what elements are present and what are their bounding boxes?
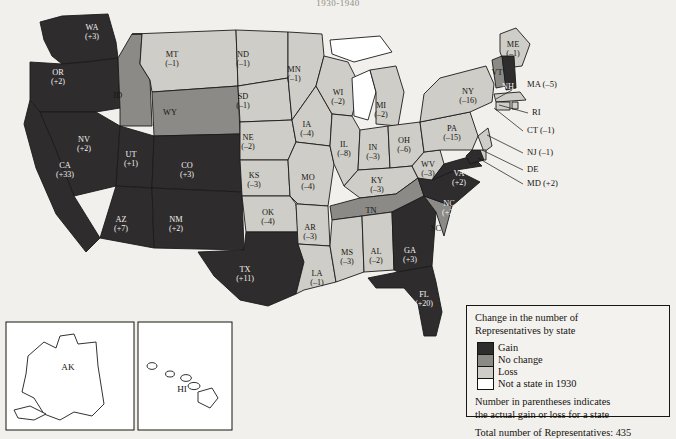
legend-note-line1: Number in parentheses indicates [475,396,661,409]
state-label-ID: ID [114,91,123,100]
legend-swatch-loss [477,366,494,378]
state-label-MI: MI(–2) [374,101,388,119]
state-MD[interactable] [466,150,484,164]
state-MA[interactable] [494,92,526,102]
lake-superior [330,36,392,62]
state-AZ[interactable] [100,186,154,248]
callout-label-RI: RI [532,107,541,117]
state-label-WY: WY [163,108,177,117]
state-label-LA: LA(–1) [310,269,324,287]
state-label-VA: VA(+2) [452,169,466,187]
callout-label-DE: DE [527,164,538,174]
legend-item-gain[interactable]: Gain [477,342,661,354]
callout-label-NJ: NJ (–1) [527,147,553,157]
state-label-NV: NV(+2) [77,135,91,153]
legend-heading: Change in the number of Representatives … [475,312,661,337]
legend-label-nochange: No change [498,354,543,367]
state-OR[interactable] [30,58,120,112]
legend-item-notstate[interactable]: Not a state in 1930 [477,378,661,390]
state-label-NE: NE(–2) [241,133,255,151]
state-NM[interactable] [152,188,244,250]
legend-heading-line2: Representatives by state [475,325,661,338]
state-RI[interactable] [512,102,518,109]
state-label-ME: ME(–1) [506,40,520,58]
state-KS[interactable] [240,160,290,196]
inset-label-AK: AK [61,362,75,372]
state-label-SD: SD(–1) [236,92,250,110]
state-label-MS: MS(–3) [340,248,354,266]
legend-label-notstate: Not a state in 1930 [498,378,577,391]
legend-heading-line1: Change in the number of [475,312,661,325]
state-label-SC: SC [431,224,442,233]
callout-leader-MD [478,158,523,184]
state-label-OR: OR(+2) [51,68,65,86]
state-label-NM: NM(+2) [169,215,183,233]
callout-label-CT: CT (–1) [527,125,554,135]
state-label-VT: VT [491,68,502,77]
state-label-WA: WA(+3) [85,23,99,41]
map-figure: 1930-1940 [0,0,676,439]
state-label-CO: CO(+3) [180,161,194,179]
state-label-WI: WI(–2) [331,88,345,106]
state-label-KS: KS(–3) [247,171,261,189]
state-label-AR: AR(–3) [303,223,317,241]
state-label-AZ: AZ(+7) [114,215,128,233]
state-label-NC: NC(+2) [442,199,456,217]
state-label-AL: AL(–2) [369,247,383,265]
callout-leader-NJ [487,135,523,153]
state-label-MO: MO(–4) [301,173,315,191]
state-NY[interactable] [420,66,494,122]
legend-item-loss[interactable]: Loss [477,366,661,378]
state-label-KY: KY(–3) [370,176,384,194]
legend: Change in the number of Representatives … [466,305,670,417]
callout-label-MD: MD (+2) [527,178,558,188]
state-label-UT: UT(+1) [124,150,138,168]
state-label-NH: NH [502,82,514,91]
state-label-ND: ND(–1) [236,50,250,68]
legend-note-line2: the actual gain or loss for a state [475,409,661,422]
state-NJ[interactable] [478,128,492,152]
legend-swatch-gain [477,342,494,354]
legend-label-gain: Gain [498,342,518,355]
state-label-MN: MN(–1) [287,65,301,83]
state-WA[interactable] [40,14,118,64]
state-label-WV: WV(–3) [421,160,435,178]
legend-note: Number in parentheses indicates the actu… [475,396,661,421]
callout-leader-CT [494,108,523,131]
legend-swatch-notstate [477,378,494,390]
state-label-GA: GA(+3) [403,246,417,264]
callout-label-MA: MA (–5) [527,79,557,89]
inset-label-HI: HI [177,384,187,394]
legend-swatch-nochange [477,354,494,366]
legend-swatches: Gain No change Loss Not a state in 1930 [477,342,661,390]
state-label-TN: TN [365,206,376,215]
legend-label-loss: Loss [498,366,518,379]
state-label-MT: MT(–1) [165,50,179,68]
state-CO[interactable] [152,134,242,192]
state-label-OH: OH(–6) [397,136,411,154]
legend-item-nochange[interactable]: No change [477,354,661,366]
state-label-OK: OK(–4) [261,208,275,226]
legend-total: Total number of Representatives: 435 [475,427,661,439]
callout-leader-DE [482,150,523,170]
